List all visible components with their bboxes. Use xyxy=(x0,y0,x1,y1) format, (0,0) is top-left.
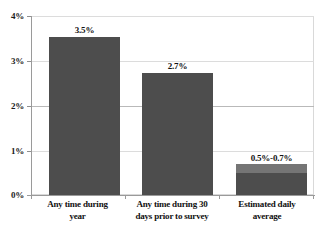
category-label-line-2: days prior to survey xyxy=(124,211,220,223)
category-label-line-1: Estimated daily xyxy=(220,199,314,211)
x-axis-line xyxy=(27,195,315,196)
gridline-4pct xyxy=(31,16,314,17)
y-axis-label-4: 4% xyxy=(0,12,24,21)
bar-segment-range-upper xyxy=(236,164,307,173)
y-axis-label-0: 0% xyxy=(0,191,24,200)
category-label-any-time-during-year: Any time during year xyxy=(30,199,125,222)
bar-any-time-during-year[interactable] xyxy=(49,37,120,195)
y-axis-label-2: 2% xyxy=(0,102,24,111)
category-label-line-2: average xyxy=(220,211,314,223)
bar-any-time-30-days[interactable] xyxy=(142,73,213,195)
category-label-line-1: Any time during xyxy=(30,199,125,211)
category-label-line-2: year xyxy=(30,211,125,223)
category-label-line-1: Any time during 30 xyxy=(124,199,220,211)
category-label-estimated-daily-average: Estimated daily average xyxy=(220,199,314,222)
bar-segment-primary xyxy=(49,37,120,195)
y-axis-line xyxy=(31,16,32,196)
y-axis-label-1: 1% xyxy=(0,147,24,156)
bar-segment-primary xyxy=(142,73,213,195)
bar-segment-primary xyxy=(236,173,307,195)
bar-chart: 4% 3% 2% 1% 0% 3.5% 2.7% 0.5%-0.7% Any t… xyxy=(0,0,328,234)
bar-value-label-3: 0.5%-0.7% xyxy=(231,153,312,163)
bar-value-label-1: 3.5% xyxy=(49,25,120,35)
category-label-any-time-30-days: Any time during 30 days prior to survey xyxy=(124,199,220,222)
bar-estimated-daily-average[interactable] xyxy=(236,164,307,195)
bar-value-label-2: 2.7% xyxy=(142,61,213,71)
y-axis-label-3: 3% xyxy=(0,57,24,66)
